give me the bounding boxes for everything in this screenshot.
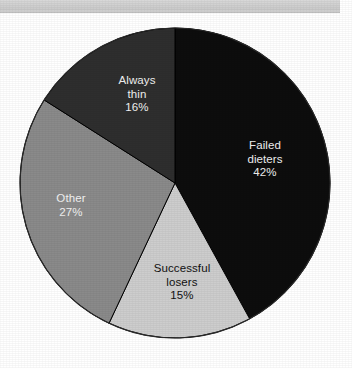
pie-slices <box>20 28 330 338</box>
pie-chart: Failed dieters 42% Always thin 16% Other… <box>0 0 352 368</box>
pie-chart-svg <box>0 0 352 368</box>
figure-page: Failed dieters 42% Always thin 16% Other… <box>0 0 352 368</box>
